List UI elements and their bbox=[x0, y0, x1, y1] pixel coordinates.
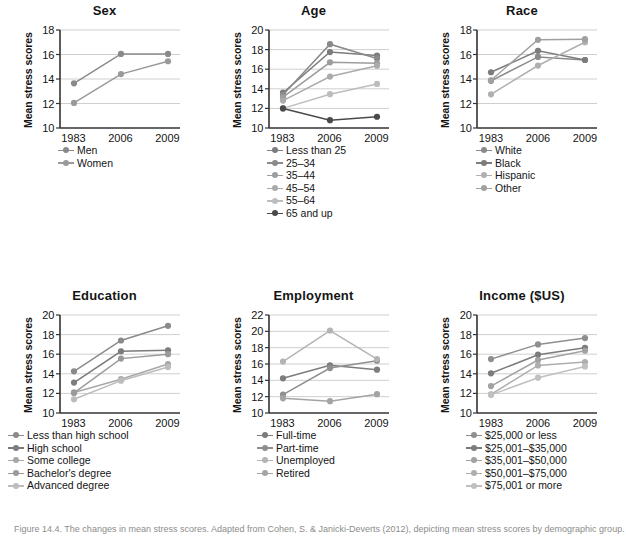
legend-marker-icon bbox=[58, 144, 74, 156]
legend-sex: MenWomen bbox=[58, 144, 113, 169]
legend-item[interactable]: Hispanic bbox=[476, 169, 535, 182]
data-point bbox=[279, 97, 285, 103]
legend-item[interactable]: White bbox=[476, 144, 535, 157]
plot-area-income: Mean stress scores1012141618201983200620… bbox=[437, 309, 607, 431]
legend-item[interactable]: 45–54 bbox=[267, 182, 346, 195]
legend-item[interactable]: 65 and up bbox=[267, 207, 346, 220]
y-tick-label: 10 bbox=[22, 408, 55, 418]
data-point bbox=[535, 37, 541, 43]
legend-label: $50,001–$75,000 bbox=[485, 467, 567, 480]
legend-item[interactable]: Retired bbox=[257, 467, 335, 480]
legend-label: Other bbox=[495, 182, 521, 195]
legend-label: Women bbox=[77, 157, 113, 170]
legend-label: Part-time bbox=[276, 442, 319, 455]
legend-item[interactable]: $35,001–$50,000 bbox=[466, 454, 567, 467]
legend-label: Advanced degree bbox=[27, 479, 109, 492]
x-tick-label: 1983 bbox=[471, 418, 511, 429]
legend-marker-icon bbox=[58, 157, 74, 169]
y-tick-label: 10 bbox=[439, 123, 472, 133]
legend-item[interactable]: Full-time bbox=[257, 429, 335, 442]
legend-item[interactable]: $25,001–$35,000 bbox=[466, 442, 567, 455]
x-tick-label: 2006 bbox=[310, 418, 350, 429]
legend-marker-icon bbox=[8, 467, 24, 479]
legend-item[interactable]: Men bbox=[58, 144, 113, 157]
data-point bbox=[164, 364, 170, 370]
legend-marker-icon bbox=[476, 182, 492, 194]
legend-item[interactable]: High school bbox=[8, 442, 129, 455]
data-point bbox=[326, 91, 332, 97]
legend-marker-icon bbox=[466, 467, 482, 479]
data-point bbox=[70, 368, 76, 374]
legend-item[interactable]: Black bbox=[476, 157, 535, 170]
data-point bbox=[582, 348, 588, 354]
data-point bbox=[488, 69, 494, 75]
data-point bbox=[582, 363, 588, 369]
legend-item[interactable]: Some college bbox=[8, 454, 129, 467]
y-tick-label: 12 bbox=[231, 103, 264, 113]
legend-item[interactable]: $50,001–$75,000 bbox=[466, 467, 567, 480]
legend-item[interactable]: Unemployed bbox=[257, 454, 335, 467]
legend-item[interactable]: 35–44 bbox=[267, 169, 346, 182]
legend-label: Men bbox=[77, 144, 97, 157]
legend-label: Less than high school bbox=[27, 429, 129, 442]
legend-marker-icon bbox=[257, 454, 273, 466]
series-line bbox=[283, 331, 377, 362]
data-point bbox=[488, 370, 494, 376]
data-point bbox=[279, 105, 285, 111]
y-tick-label: 10 bbox=[231, 408, 264, 418]
legend-label: 65 and up bbox=[286, 207, 333, 220]
legend-item[interactable]: $75,001 or more bbox=[466, 479, 567, 492]
legend-item[interactable]: Advanced degree bbox=[8, 479, 129, 492]
y-tick-label: 14 bbox=[22, 74, 55, 84]
legend-marker-icon bbox=[8, 480, 24, 492]
legend-item[interactable]: Other bbox=[476, 182, 535, 195]
legend-item[interactable]: Part-time bbox=[257, 442, 335, 455]
legend-item[interactable]: Bachelor's degree bbox=[8, 467, 129, 480]
data-point bbox=[373, 391, 379, 397]
legend-age: Less than 2525–3435–4445–5455–6465 and u… bbox=[267, 144, 346, 220]
legend-label: Unemployed bbox=[276, 454, 335, 467]
x-tick-label: 1983 bbox=[263, 418, 303, 429]
panel-education: Education Mean stress scores101214161820… bbox=[0, 285, 209, 531]
x-tick-label: 2009 bbox=[565, 418, 605, 429]
y-tick-label: 10 bbox=[439, 408, 472, 418]
y-tick-label: 20 bbox=[22, 310, 55, 320]
data-point bbox=[326, 398, 332, 404]
legend-item[interactable]: $25,000 or less bbox=[466, 429, 567, 442]
legend-marker-icon bbox=[476, 144, 492, 156]
y-tick-label: 14 bbox=[231, 375, 264, 385]
legend-item[interactable]: Women bbox=[58, 157, 113, 170]
legend-marker-icon bbox=[466, 442, 482, 454]
data-point bbox=[326, 73, 332, 79]
data-point bbox=[117, 337, 123, 343]
legend-marker-icon bbox=[267, 169, 283, 181]
panel-title-employment: Employment bbox=[209, 285, 418, 307]
plot-area-age: Mean stress scores1012141618201983200620… bbox=[229, 24, 399, 146]
legend-marker-icon bbox=[267, 157, 283, 169]
legend-marker-icon bbox=[267, 144, 283, 156]
y-tick-label: 12 bbox=[22, 99, 55, 109]
panel-age: Age Mean stress scores101214161820198320… bbox=[209, 0, 418, 285]
legend-item[interactable]: Less than high school bbox=[8, 429, 129, 442]
data-point bbox=[488, 392, 494, 398]
data-point bbox=[373, 367, 379, 373]
x-tick-label: 1983 bbox=[471, 133, 511, 144]
y-tick-label: 16 bbox=[231, 359, 264, 369]
legend-marker-icon bbox=[257, 467, 273, 479]
panel-sex: Sex Mean stress scores101214161819832006… bbox=[0, 0, 209, 285]
legend-item[interactable]: Less than 25 bbox=[267, 144, 346, 157]
data-point bbox=[373, 356, 379, 362]
panel-race: Race Mean stress scores10121416181983200… bbox=[418, 0, 626, 285]
y-tick-label: 22 bbox=[231, 310, 264, 320]
legend-item[interactable]: 25–34 bbox=[267, 157, 346, 170]
plot-area-employment: Mean stress scores1012141618202219832006… bbox=[229, 309, 399, 431]
data-point bbox=[582, 57, 588, 63]
legend-item[interactable]: 55–64 bbox=[267, 194, 346, 207]
legend-label: Retired bbox=[276, 467, 310, 480]
data-point bbox=[117, 51, 123, 57]
data-point bbox=[117, 378, 123, 384]
x-tick-label: 1983 bbox=[54, 418, 94, 429]
data-point bbox=[279, 375, 285, 381]
x-tick-label: 2006 bbox=[518, 133, 558, 144]
